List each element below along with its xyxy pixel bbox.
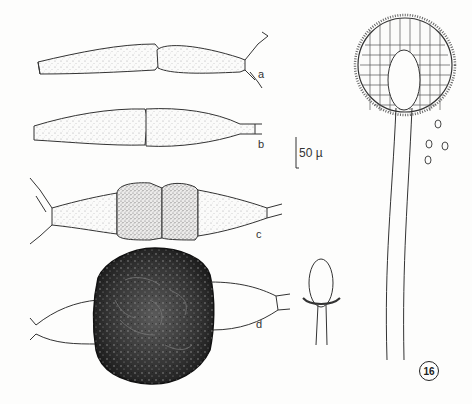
panel-label-d: d (256, 318, 262, 330)
resting-spore-d (94, 248, 214, 384)
panel-label-a: a (258, 68, 264, 80)
figure-number: 16 (419, 361, 439, 381)
panel-label-c: c (256, 228, 262, 240)
illustration (0, 0, 472, 404)
panel-label-b: b (258, 138, 264, 150)
hypha-c (30, 178, 282, 244)
free-spores (425, 120, 448, 164)
hypha-b (34, 109, 262, 147)
mature-sporangium (355, 15, 455, 360)
scale-bar-label: 50 µ (299, 146, 323, 160)
figure-canvas: a b c d 50 µ 16 (0, 0, 472, 404)
hypha-a (38, 32, 268, 88)
sporangiophore (386, 108, 412, 360)
young-sporangium (303, 259, 340, 345)
figure-number-text: 16 (423, 366, 434, 377)
